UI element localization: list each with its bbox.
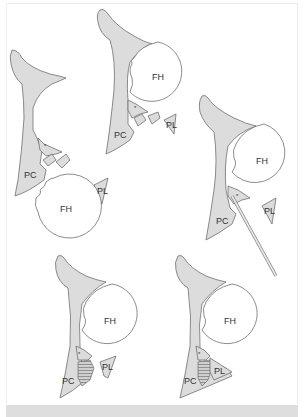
posterior-column [10,50,66,196]
panel-4: PC FH PL * [55,255,137,398]
bone-graft [78,360,94,386]
label-pl: PL [102,362,113,372]
label-fh: FH [256,156,268,166]
wall-fragment [56,154,70,168]
label-fh: FH [224,316,236,326]
label-pl: PL [97,186,108,196]
label-pc: PC [24,170,37,180]
label-pc: PC [216,216,229,226]
label-pc: PC [62,376,75,386]
panel-1: PC FH PL * [10,50,108,238]
label-pc: PC [114,130,127,140]
panel-3: PC FH PL * [199,95,285,276]
label-fh: FH [152,72,164,82]
wall-fragment [43,154,56,166]
label-pc: PC [184,376,197,386]
caption-band [6,405,298,417]
label-pl: PL [214,366,225,376]
label-fh: FH [60,204,72,214]
label-fh: FH [104,316,116,326]
diagram-canvas: PC FH PL * PC FH PL * PC FH PL * PC [0,0,304,417]
panel-5: PC FH PL * [175,255,257,398]
wall-fragment-star [228,186,250,204]
wall-fragment [148,112,160,124]
label-pl: PL [166,120,177,130]
label-pl: PL [264,206,275,216]
panel-2: PC FH PL * [97,10,181,155]
wall-fragment-star [128,100,148,118]
